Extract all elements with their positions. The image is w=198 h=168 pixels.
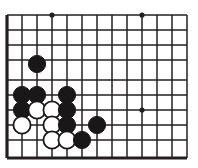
white-stone[interactable] bbox=[13, 116, 30, 133]
star-point bbox=[139, 12, 144, 17]
black-stone[interactable] bbox=[28, 55, 45, 72]
go-board-diagram bbox=[0, 0, 198, 168]
board-background bbox=[0, 0, 198, 168]
black-stone[interactable] bbox=[88, 116, 105, 133]
star-point bbox=[139, 107, 144, 112]
go-board-canvas[interactable] bbox=[0, 0, 198, 168]
star-point bbox=[49, 12, 54, 17]
black-stone[interactable] bbox=[73, 131, 90, 148]
